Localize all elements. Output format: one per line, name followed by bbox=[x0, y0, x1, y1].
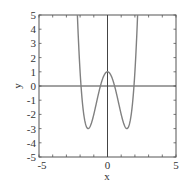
y-tick-label: 4 bbox=[31, 23, 37, 35]
y-tick-label: 5 bbox=[31, 9, 37, 21]
y-tick-label: -2 bbox=[27, 108, 36, 120]
y-tick-labels: -5-4-3-2-1012345 bbox=[27, 9, 37, 163]
y-tick-label: 2 bbox=[31, 52, 37, 64]
y-axis-label: y bbox=[11, 83, 23, 89]
y-tick-label: 1 bbox=[31, 66, 37, 78]
x-tick-label: 5 bbox=[173, 159, 179, 171]
y-tick-label: 3 bbox=[31, 37, 37, 49]
y-tick-label: -3 bbox=[27, 123, 37, 135]
origin-axes bbox=[39, 15, 176, 157]
x-tick-label: -5 bbox=[37, 159, 47, 171]
y-tick-label: -4 bbox=[27, 137, 37, 149]
y-tick-label: -5 bbox=[27, 151, 37, 163]
y-tick-label: -1 bbox=[27, 94, 36, 106]
x-axis-label: x bbox=[104, 170, 110, 182]
line-chart: -5-4-3-2-1012345 -505 x y bbox=[0, 0, 181, 183]
y-tick-label: 0 bbox=[31, 80, 37, 92]
